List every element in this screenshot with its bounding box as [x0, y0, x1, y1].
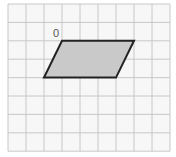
grid-diagram: 0: [0, 0, 176, 157]
vertex-label: 0: [53, 27, 59, 39]
